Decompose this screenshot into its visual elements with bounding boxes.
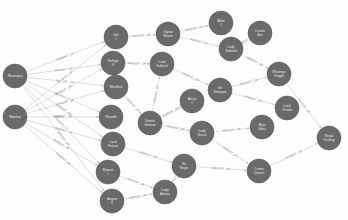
- edge-label: PARENT_OF: [152, 84, 159, 102]
- graph-node[interactable]: SirRegis: [172, 154, 196, 178]
- node-label: Rhaelle: [105, 115, 117, 119]
- graph-node[interactable]: ElaeonI: [96, 160, 120, 184]
- relationship-edge[interactable]: PARENT_OF: [119, 176, 153, 188]
- edge-label: PARENT_OF: [54, 115, 72, 119]
- relationship-edge[interactable]: PARENT_OF: [124, 148, 172, 163]
- relationship-edge[interactable]: PARENT_OF: [124, 96, 141, 114]
- graph-node[interactable]: SirVelaryon: [208, 78, 232, 102]
- relationship-edge[interactable]: PARENT_OF: [242, 55, 268, 69]
- edge-label: PARENT_OF: [139, 150, 157, 159]
- node-label: I: [108, 172, 109, 176]
- node-label: Maekar: [9, 115, 21, 119]
- graph-node[interactable]: LordFalcon: [101, 132, 125, 156]
- graph-node[interactable]: RhaenysKnight: [267, 62, 291, 86]
- edge-label: PARENT_OF: [285, 149, 303, 160]
- edge-label: PARENT_OF: [185, 25, 203, 33]
- node-label: Tristan: [282, 108, 292, 112]
- graph-node[interactable]: LordTarbeck: [150, 52, 174, 76]
- graph-node[interactable]: Marillion: [104, 75, 128, 99]
- node-label: I: [221, 23, 222, 27]
- node-label: Amara: [160, 192, 170, 196]
- edge-label: PARENT_OF: [128, 61, 146, 65]
- relationship-edge[interactable]: PARENT_OF: [173, 69, 209, 85]
- relationship-edge[interactable]: PARENT_OF: [212, 140, 249, 164]
- relationship-edge[interactable]: PARENT_OF: [124, 193, 153, 200]
- node-label: Knight: [274, 74, 284, 78]
- node-label: Moore: [163, 34, 173, 38]
- edge-label: PARENT_OF: [212, 166, 230, 171]
- graph-node[interactable]: CassieBar: [248, 21, 272, 45]
- graph-view[interactable]: PARENT_OFPARENT_OFPARENT_OFPARENT_OFPARE…: [0, 0, 348, 220]
- node-label: Regis: [180, 166, 189, 170]
- edge-label: PARENT_OF: [222, 145, 239, 158]
- graph-node[interactable]: RoyalDestiny: [317, 126, 341, 150]
- relationship-edge[interactable]: PARENT_OF: [214, 127, 250, 133]
- edge-label: PARENT_OF: [129, 193, 147, 200]
- node-label: I: [116, 37, 117, 41]
- relationship-edge[interactable]: PARENT_OF: [27, 115, 99, 119]
- node-label: Tarbeck: [225, 49, 237, 53]
- relationship-edge[interactable]: PARENT_OF: [128, 33, 156, 38]
- edge-label: PARENT_OF: [167, 124, 185, 131]
- graph-node[interactable]: LadyAmara: [153, 180, 177, 204]
- node-label: I: [192, 101, 193, 105]
- relationship-edge[interactable]: PARENT_OF: [125, 61, 150, 65]
- graph-node[interactable]: DimitriGreene: [138, 111, 162, 135]
- edge-label: PARENT_OF: [55, 152, 71, 167]
- edge-label: PARENT_OF: [240, 78, 258, 87]
- graph-node[interactable]: Rhaenyra: [3, 64, 27, 88]
- edge-label: PARENT_OF: [162, 106, 180, 118]
- node-label: Grace: [197, 133, 206, 137]
- relationship-edge[interactable]: PARENT_OF: [196, 166, 247, 171]
- graph-node[interactable]: TarleynII: [101, 51, 125, 75]
- relationship-edge[interactable]: PARENT_OF: [270, 143, 318, 166]
- relationship-edge[interactable]: PARENT_OF: [152, 76, 159, 111]
- graph-node[interactable]: OlyvarMoore: [156, 22, 180, 46]
- edge-label: PARENT_OF: [190, 37, 208, 45]
- edge-label: PARENT_OF: [223, 127, 241, 133]
- graph-node[interactable]: AlynVelar: [250, 115, 274, 139]
- node-label: Velar: [258, 127, 267, 131]
- node-label: Marillion: [110, 85, 123, 89]
- node-label: Velaryon: [213, 90, 226, 94]
- node-label: Destiny: [323, 138, 335, 142]
- node-label: Rhaenyra: [8, 74, 23, 78]
- graph-canvas[interactable]: PARENT_OFPARENT_OFPARENT_OFPARENT_OFPARE…: [0, 0, 348, 220]
- graph-node[interactable]: Maekar: [3, 105, 27, 129]
- edge-label: PARENT_OF: [127, 177, 145, 187]
- graph-node[interactable]: AltonI: [209, 11, 233, 35]
- relationship-edge[interactable]: PARENT_OF: [180, 37, 219, 46]
- relationship-edge[interactable]: PARENT_OF: [180, 25, 209, 33]
- node-label: Falcon: [108, 144, 118, 148]
- graph-node[interactable]: LadyTarbeck: [219, 37, 243, 61]
- edge-label: PARENT_OF: [56, 51, 74, 61]
- node-label: Queen: [254, 171, 264, 175]
- edge-label: PARENT_OF: [244, 95, 262, 104]
- graph-node[interactable]: LadyGrace: [190, 121, 214, 145]
- node-label: II: [111, 201, 113, 205]
- graph-node[interactable]: Rhaelle: [99, 105, 123, 129]
- node-label: Bar: [257, 33, 263, 37]
- graph-node[interactable]: JonI: [104, 25, 128, 49]
- relationship-edge[interactable]: PARENT_OF: [232, 93, 275, 105]
- graph-node[interactable]: AegonII: [100, 189, 124, 213]
- relationship-edge[interactable]: PARENT_OF: [161, 106, 181, 118]
- relationship-edge[interactable]: PARENT_OF: [232, 77, 267, 87]
- graph-node[interactable]: AerysI: [180, 89, 204, 113]
- edge-label: PARENT_OF: [182, 71, 200, 82]
- edge-label: PARENT_OF: [246, 56, 264, 68]
- relationship-edge[interactable]: PARENT_OF: [162, 124, 190, 131]
- node-label: Greene: [144, 123, 155, 127]
- relationship-edge[interactable]: PARENT_OF: [27, 65, 101, 75]
- graph-node[interactable]: CrownQueen: [247, 159, 271, 183]
- edge-label: PARENT_OF: [133, 33, 151, 38]
- node-label: Tarbeck: [156, 64, 168, 68]
- graph-node[interactable]: LordTristan: [275, 96, 299, 120]
- edge-label: PARENT_OF: [125, 97, 140, 113]
- node-label: II: [112, 63, 114, 67]
